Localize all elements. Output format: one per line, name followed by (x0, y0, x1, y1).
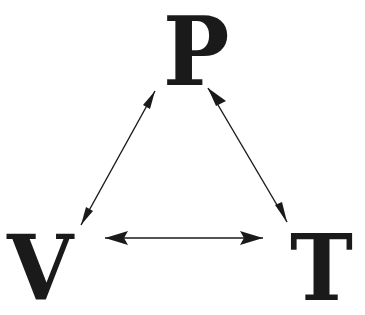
edge-p-v-arrow (81, 91, 155, 225)
arrowhead-icon (143, 91, 155, 109)
edge-v-t-arrow (105, 231, 263, 245)
arrowhead-icon (81, 207, 93, 225)
arrowhead-icon (208, 88, 226, 106)
arrows-layer (0, 0, 365, 315)
edge-p-t-arrow (208, 88, 287, 222)
arrowhead-icon (275, 202, 287, 222)
